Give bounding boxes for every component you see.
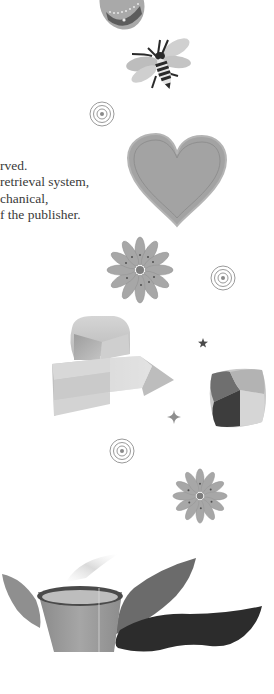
copyright-text: rved. retrieval system, chanical, f the … [0,158,140,223]
gem-stone-icon [206,366,270,430]
decorated-egg-icon [96,0,148,32]
copyright-line: f the publisher. [0,207,140,223]
crystal-icon [44,312,194,424]
daisy-flower-icon [172,468,228,524]
tea-cup-icon [0,544,274,654]
star-icon [198,338,208,348]
copyright-line: rved. [0,158,140,174]
copyright-line: retrieval system, [0,174,140,190]
daisy-flower-icon [106,236,174,304]
concentric-circles-icon [88,100,116,128]
bee-icon [118,36,196,94]
concentric-circles-icon [108,437,136,465]
concentric-circles-icon [209,264,237,292]
copyright-line: chanical, [0,191,140,207]
sparkle-icon [167,410,181,424]
heart-icon [126,132,228,228]
